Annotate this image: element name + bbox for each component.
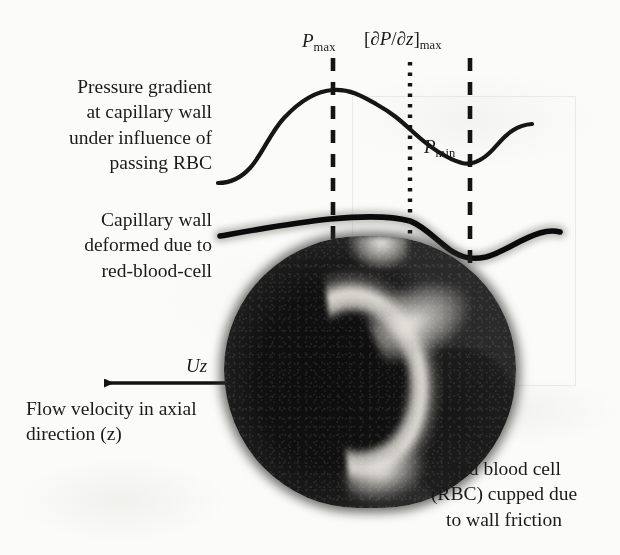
capillary-wall-halo	[220, 217, 560, 258]
label-p-min-subscript: min	[436, 146, 456, 160]
label-velocity-z: z	[200, 355, 207, 376]
figure-root: Pressure gradient at capillary wall unde…	[0, 0, 620, 555]
label-velocity-u: U	[186, 355, 200, 376]
capillary-wall-caption: Capillary wall deformed due to red-blood…	[12, 207, 212, 283]
label-p-max-symbol: P	[302, 30, 314, 51]
label-gradient-max: [∂P/∂z]max	[364, 28, 442, 53]
pressure-curve	[218, 90, 532, 183]
flow-velocity-caption: Flow velocity in axial direction (z)	[26, 396, 256, 447]
label-grad-partial-2: ∂	[397, 28, 406, 49]
label-p-max-subscript: max	[314, 40, 336, 54]
label-grad-partial-1: ∂	[370, 28, 379, 49]
pressure-gradient-caption: Pressure gradient at capillary wall unde…	[12, 74, 212, 175]
label-p-max: Pmax	[302, 30, 336, 55]
label-velocity-uz: Uz	[186, 355, 207, 377]
label-grad-p: P	[380, 28, 392, 49]
label-p-min: Pmin	[424, 136, 455, 161]
rbc-caption: Red blood cell (RBC) cupped due to wall …	[396, 456, 612, 532]
label-p-min-symbol: P	[424, 136, 436, 157]
label-grad-subscript: max	[420, 38, 442, 52]
